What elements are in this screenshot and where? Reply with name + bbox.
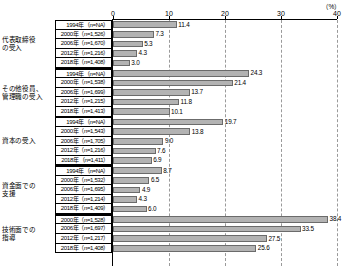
bar-value-label: 11.4: [178, 22, 189, 29]
row-label: 2012年（n=1,216）: [55, 146, 112, 156]
bar: [113, 41, 143, 48]
row-label: 2018年（n=1,408）: [55, 244, 112, 254]
x-tick-mark: [169, 16, 170, 19]
row-label: 2006年（n=1,699）: [55, 88, 112, 98]
row-label: 2018年（n=1,413）: [55, 107, 112, 117]
bar-value-label: 4.9: [142, 187, 150, 194]
row-label: 2000年（n=1,532）: [55, 176, 112, 186]
bar-value-label: 33.5: [302, 226, 314, 233]
bar-value-label: 11.8: [181, 99, 192, 106]
bar: [113, 157, 152, 164]
bar-value-label: 4.3: [139, 50, 147, 57]
bar-value-label: 9.0: [165, 138, 173, 145]
x-tick-mark: [225, 16, 226, 19]
bar: [113, 80, 233, 87]
row-label: 2012年（n=1,217）: [55, 234, 112, 244]
chart-group: 資本の受入1994年（n=NA）19.72000年（n=1,543）13.820…: [0, 117, 344, 165]
bar: [113, 226, 301, 233]
chart-group: その他役員、管理職の受入1994年（n=NA）24.32000年（n=1,538…: [0, 69, 344, 117]
bar: [113, 21, 177, 28]
row-label: 2000年（n=1,538）: [55, 78, 112, 88]
bar-value-label: 25.6: [258, 245, 270, 252]
row-label: 2012年（n=1,216）: [55, 49, 112, 59]
bar-value-label: 4.3: [139, 196, 147, 203]
bar-value-label: 21.4: [234, 80, 246, 87]
x-tick-mark: [281, 16, 282, 19]
bar: [113, 89, 190, 96]
chart-group: 代表取締役の受入1994年（n=NA）11.42000年（n=1,526）7.3…: [0, 20, 344, 68]
bar: [113, 31, 154, 38]
row-label: 2006年（n=1,670）: [55, 39, 112, 49]
category-label: 資金面での支援: [2, 182, 54, 198]
bar: [113, 235, 267, 242]
bar-value-label: 3.0: [131, 60, 139, 67]
row-label: 2000年（n=1,526）: [55, 30, 112, 40]
bar-value-label: 6.0: [148, 206, 156, 213]
bar-value-label: 24.3: [251, 70, 263, 77]
category-label: 資本の受入: [2, 137, 54, 145]
bar: [113, 50, 137, 57]
bar: [113, 216, 328, 223]
row-label: 1994年（n=NA）: [55, 166, 112, 176]
bar: [113, 99, 179, 106]
row-label: 2012年（n=1,214）: [55, 195, 112, 205]
bar-value-label: 7.6: [157, 148, 165, 155]
bar: [113, 206, 147, 213]
bar-value-label: 6.9: [153, 157, 161, 164]
bar: [113, 60, 130, 67]
row-label: 1994年（n=NA）: [55, 20, 112, 30]
bar: [113, 245, 256, 252]
bar-value-label: 27.5: [269, 236, 281, 243]
bar: [113, 119, 223, 126]
bar: [113, 138, 163, 145]
row-label: 1994年（n=NA）: [55, 69, 112, 79]
row-label: 2000年（n=1,528）: [55, 215, 112, 225]
row-label: 2006年（n=1,695）: [55, 185, 112, 195]
category-label: 技術面での指導: [2, 226, 54, 242]
bar-value-label: 5.3: [144, 41, 152, 48]
row-label: 2018年（n=1,409）: [55, 204, 112, 214]
horizontal-bar-chart: （%） 010203040 代表取締役の受入1994年（n=NA）11.4200…: [0, 0, 344, 270]
bar-value-label: 13.7: [191, 89, 203, 96]
category-label: その他役員、管理職の受入: [2, 85, 54, 101]
row-label: 1994年（n=NA）: [55, 117, 112, 127]
bar-value-label: 6.5: [151, 177, 159, 184]
bar: [113, 177, 149, 184]
bar-value-label: 13.8: [192, 129, 204, 136]
bar: [113, 70, 249, 77]
category-label: 代表取締役の受入: [2, 36, 54, 52]
bar-value-label: 19.7: [225, 119, 237, 126]
row-label: 2012年（n=1,215）: [55, 97, 112, 107]
row-label: 2018年（n=1,408）: [55, 58, 112, 68]
chart-group: 技術面での指導2000年（n=1,528）38.42006年（n=1,697）3…: [0, 215, 344, 253]
row-label: 2006年（n=1,697）: [55, 224, 112, 234]
chart-group: 資金面での支援1994年（n=NA）8.72000年（n=1,532）6.520…: [0, 166, 344, 214]
row-label: 2018年（n=1,411）: [55, 156, 112, 166]
bar: [113, 108, 170, 115]
row-label: 2000年（n=1,543）: [55, 127, 112, 137]
bar: [113, 187, 140, 194]
x-tick-mark: [337, 16, 338, 19]
bar: [113, 128, 190, 135]
bar: [113, 148, 156, 155]
bar: [113, 196, 137, 203]
bar-value-label: 7.3: [155, 31, 163, 38]
x-tick-mark: [113, 16, 114, 19]
bar: [113, 167, 162, 174]
bar-value-label: 38.4: [330, 216, 342, 223]
bar-value-label: 8.7: [163, 168, 171, 175]
row-label: 2006年（n=1,705）: [55, 137, 112, 147]
bar-value-label: 10.1: [171, 109, 183, 116]
